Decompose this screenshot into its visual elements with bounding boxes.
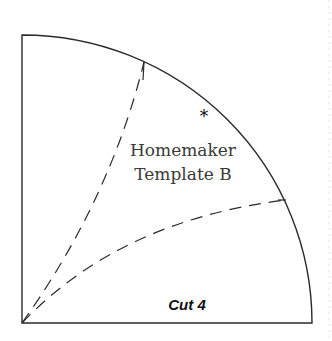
- seam-line-shallow: [22, 200, 286, 323]
- template-title-line2: Template B: [134, 164, 231, 184]
- asterisk-icon: *: [200, 105, 209, 126]
- seam-line-steep: [22, 62, 144, 323]
- template-title-line1: Homemaker: [130, 140, 237, 160]
- cut-count-label: Cut 4: [168, 296, 206, 313]
- template-diagram: * Homemaker Template B Cut 4: [0, 0, 332, 341]
